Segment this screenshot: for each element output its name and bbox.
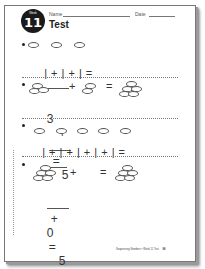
addend-2: 0 — [47, 226, 54, 240]
picture-plus: + — [70, 166, 77, 178]
divider — [22, 156, 178, 157]
coin-icon — [51, 42, 62, 48]
problem-4-number-bullet — [22, 163, 25, 166]
problem-2-number-bullet — [22, 83, 25, 86]
date-field[interactable] — [149, 16, 175, 17]
problem-3-number-bullet — [22, 124, 25, 127]
sum: 5 — [62, 168, 69, 182]
plus-sign: + — [51, 212, 59, 226]
answer-blank[interactable] — [47, 208, 69, 209]
coin-icon — [128, 91, 139, 97]
coin-icon — [124, 175, 135, 181]
picture-equals: = — [106, 80, 113, 92]
name-field[interactable] — [63, 16, 130, 17]
equals-sign: = — [49, 240, 57, 254]
week-number: 11 — [21, 15, 45, 30]
addend-1: 3 — [47, 112, 54, 126]
coin-icon — [42, 175, 53, 181]
margin-copyright-line — [13, 150, 14, 235]
coin-icon — [38, 87, 49, 93]
footer-text: Sequencing Numbers • Week 11 Test — [116, 248, 159, 251]
problem-1-number-bullet — [22, 43, 25, 46]
date-label: Date — [135, 11, 146, 17]
coin-icon — [82, 88, 93, 94]
week-badge: Week 11 — [21, 9, 45, 33]
name-label: Name — [49, 11, 62, 17]
coin-icon — [74, 42, 85, 48]
answer-blank[interactable] — [47, 88, 69, 89]
divider — [22, 77, 178, 78]
sum: 5 — [59, 254, 66, 268]
page-number: 98 — [162, 248, 165, 251]
divider — [22, 118, 178, 119]
coin-icon — [28, 42, 39, 48]
picture-plus: + — [69, 80, 76, 92]
problem-4-equation: + 0 = 5 — [39, 184, 69, 268]
page-footer: Sequencing Numbers • Week 11 Test 98 — [116, 248, 165, 251]
picture-equals: = — [100, 166, 107, 178]
page-title: Test — [49, 19, 69, 30]
